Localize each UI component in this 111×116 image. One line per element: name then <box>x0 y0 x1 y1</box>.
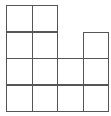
grid-cell <box>6 85 33 112</box>
grid-cell <box>32 32 59 59</box>
grid-cell <box>6 5 33 32</box>
grid-cell <box>83 32 110 59</box>
grid-shape-diagram <box>0 0 111 116</box>
grid-cell <box>32 58 59 85</box>
grid-cell <box>6 32 33 59</box>
grid-cell <box>57 58 84 85</box>
grid-cell <box>57 85 84 112</box>
grid-cell <box>6 58 33 85</box>
grid-cell <box>83 85 110 112</box>
grid-cell <box>32 5 59 32</box>
grid-cell <box>83 58 110 85</box>
grid-cell <box>32 85 59 112</box>
